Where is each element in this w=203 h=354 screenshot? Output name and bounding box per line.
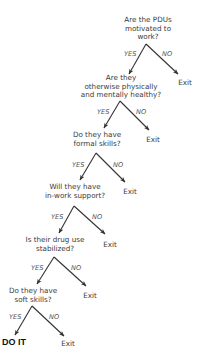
yes-label: YES: [9, 313, 21, 321]
yes-label: YES: [97, 108, 109, 116]
question-node: Are they otherwise physically and mental…: [81, 74, 161, 100]
exit-outcome: Exit: [83, 291, 97, 300]
question-line: soft skills?: [9, 296, 57, 305]
no-arrow: [32, 306, 64, 336]
exit-outcome: Exit: [103, 240, 117, 249]
no-label: NO: [113, 161, 123, 169]
question-node: Do they have formal skills?: [73, 131, 121, 148]
question-node: Are the PDUs motivated to work?: [124, 16, 171, 42]
question-node: Is their drug use stabilized?: [26, 236, 85, 253]
no-label: NO: [92, 213, 102, 221]
yes-label: YES: [31, 264, 43, 272]
exit-outcome: Exit: [178, 78, 192, 87]
final-outcome-do-it: DO IT: [2, 337, 26, 347]
yes-label: YES: [72, 161, 84, 169]
question-line: formal skills?: [73, 140, 121, 149]
exit-outcome: Exit: [146, 135, 160, 144]
yes-label: YES: [51, 213, 63, 221]
question-node: Will they have in-work support?: [45, 183, 105, 200]
question-line: work?: [124, 33, 171, 42]
no-label: NO: [71, 264, 81, 272]
no-arrow: [54, 257, 86, 286]
yes-arrow: [129, 44, 146, 74]
question-node: Do they have soft skills?: [9, 287, 57, 304]
no-label: NO: [136, 108, 146, 116]
question-line: stabilized?: [26, 245, 85, 254]
no-arrow: [146, 44, 178, 74]
decision-tree-diagram: Are the PDUs motivated to work? YES NO E…: [0, 0, 203, 354]
question-line: and mentally healthy?: [81, 91, 161, 100]
no-label: NO: [49, 313, 59, 321]
exit-outcome: Exit: [61, 339, 75, 348]
yes-label: YES: [124, 50, 136, 58]
no-label: NO: [162, 50, 172, 58]
question-line: in-work support?: [45, 192, 105, 201]
exit-outcome: Exit: [123, 187, 137, 196]
